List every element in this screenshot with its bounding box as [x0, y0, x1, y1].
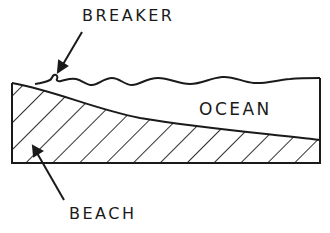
beach-label: BEACH [69, 206, 136, 222]
ocean-label: OCEAN [199, 101, 272, 118]
ocean-surface-wave [35, 75, 320, 85]
beach-region [0, 70, 330, 170]
beach-cross-section-diagram [0, 0, 330, 233]
breaker-arrow [58, 32, 82, 72]
breaker-label: BREAKER [82, 8, 174, 24]
